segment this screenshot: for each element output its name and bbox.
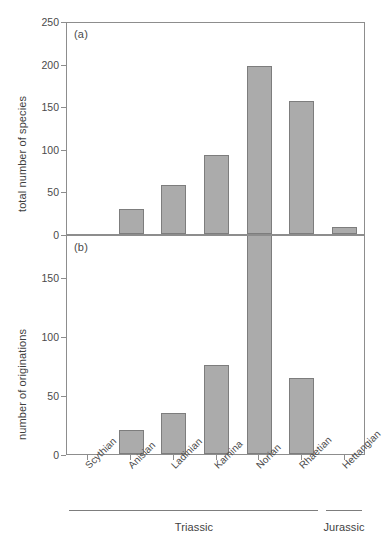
panel-a-ylabel-100: 100 — [26, 144, 59, 156]
bar-karnina — [204, 365, 229, 454]
panel-b-ylabel-0: 0 — [26, 449, 59, 461]
panel-b-label: (b) — [74, 241, 88, 253]
panel-b-plot-area — [66, 235, 365, 455]
panel-a-label: (a) — [74, 28, 88, 40]
panel-b-ytick-150 — [61, 278, 66, 279]
period-bracket-triassic — [69, 510, 318, 511]
panel-b-ylabel-50: 50 — [26, 390, 59, 402]
panel-b-ylabel-150: 150 — [26, 272, 59, 284]
panel-a-bars — [67, 23, 364, 234]
bar-ladinian — [161, 185, 186, 234]
panel-a-plot-area — [66, 22, 365, 235]
panel-a-ylabel-150: 150 — [26, 101, 59, 113]
bar-rhaetian — [289, 101, 314, 234]
bar-norian — [247, 235, 272, 454]
panel-b-ytick-50 — [61, 396, 66, 397]
bar-hettangian — [332, 227, 357, 234]
panel-a-ylabel-250: 250 — [26, 16, 59, 28]
period-bracket-jurassic — [326, 510, 362, 511]
panel-a-ytick-250 — [61, 22, 66, 23]
panel-b-ytick-0 — [61, 455, 66, 456]
panel-b-ytick-100 — [61, 337, 66, 338]
period-label-jurassic: Jurassic — [323, 521, 364, 533]
panel-b-bars — [67, 236, 364, 454]
panel-a-ylabel-200: 200 — [26, 59, 59, 71]
panel-b-y-axis-title: number of originations — [16, 329, 28, 440]
panel-a-ytick-50 — [61, 192, 66, 193]
panel-a-ytick-150 — [61, 107, 66, 108]
panel-a-ytick-200 — [61, 65, 66, 66]
panel-a-ytick-100 — [61, 150, 66, 151]
bar-norian — [247, 66, 272, 234]
bar-rhaetian — [289, 378, 314, 454]
panel-a-ylabel-0: 0 — [26, 229, 59, 241]
period-label-triassic: Triassic — [175, 521, 213, 533]
panel-b-ylabel-100: 100 — [26, 331, 59, 343]
panel-a-ylabel-50: 50 — [26, 186, 59, 198]
figure-two-panel-bar-chart: (a) total number of species 050100150200… — [0, 0, 390, 547]
bar-karnina — [204, 155, 229, 234]
bar-anisian — [119, 209, 144, 234]
